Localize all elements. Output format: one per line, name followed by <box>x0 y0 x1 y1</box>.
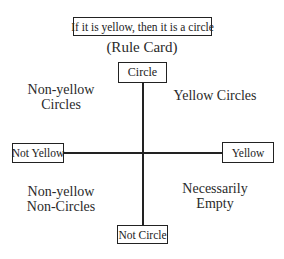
horizontal-axis-line <box>64 152 222 154</box>
axis-label-circle: Circle <box>118 62 167 83</box>
quadrant-bottom-right-line-1: Necessarily <box>165 181 265 196</box>
axis-label-circle-text: Circle <box>128 65 157 80</box>
rule-card-caption: (Rule Card) <box>92 39 192 55</box>
axis-label-not-circle-text: Not Circle <box>118 229 166 241</box>
quadrant-bottom-left: Non-yellow Non-Circles <box>11 184 111 214</box>
rule-card: If it is yellow, then it is a circle <box>73 17 212 36</box>
quadrant-top-left: Non-yellow Circles <box>11 82 111 112</box>
axis-label-not-yellow: Not Yellow <box>12 143 64 163</box>
quadrant-bottom-right: Necessarily Empty <box>165 181 265 211</box>
quadrant-bottom-right-line-2: Empty <box>165 196 265 211</box>
quadrant-top-right-line-1: Yellow Circles <box>165 88 265 103</box>
quadrant-top-left-line-1: Non-yellow <box>11 82 111 97</box>
axis-label-not-circle: Not Circle <box>117 225 168 244</box>
quadrant-top-right: Yellow Circles <box>165 88 265 103</box>
axis-label-yellow-text: Yellow <box>232 147 265 159</box>
vertical-axis-line <box>142 83 144 225</box>
quadrant-bottom-left-line-2: Non-Circles <box>11 199 111 214</box>
rule-card-text: If it is yellow, then it is a circle <box>71 21 214 33</box>
quadrant-bottom-left-line-1: Non-yellow <box>11 184 111 199</box>
quadrant-top-left-line-2: Circles <box>11 97 111 112</box>
axis-label-not-yellow-text: Not Yellow <box>12 147 64 159</box>
axis-label-yellow: Yellow <box>222 142 274 163</box>
